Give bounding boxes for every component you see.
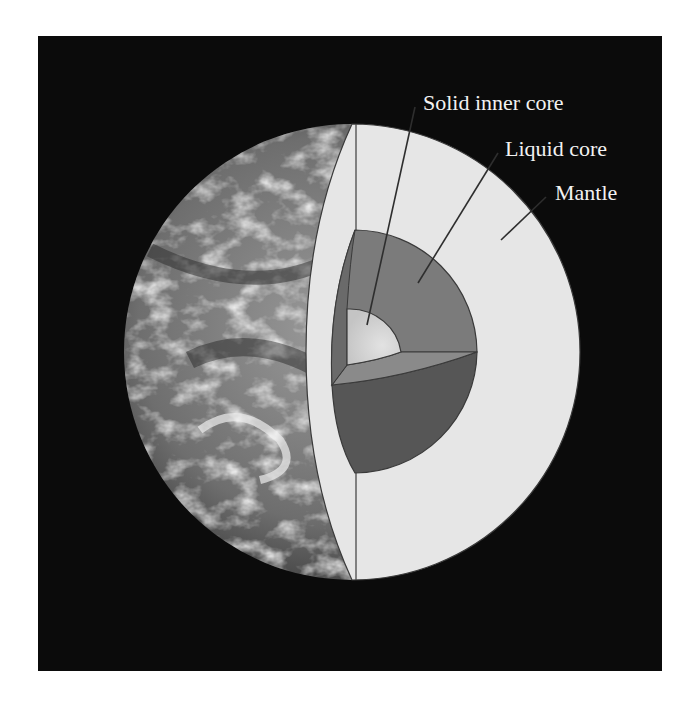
earth-cutaway-diagram: Solid inner core Liquid core Mantle <box>0 0 696 707</box>
label-mantle: Mantle <box>555 180 617 205</box>
label-solid-inner-core: Solid inner core <box>423 90 564 115</box>
label-liquid-core: Liquid core <box>505 136 607 161</box>
